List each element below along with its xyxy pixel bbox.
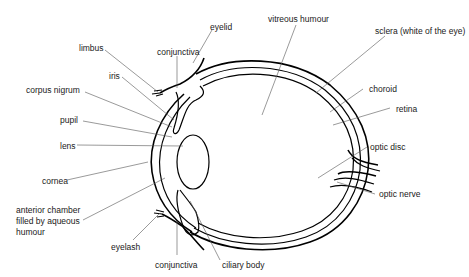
label-retina: retina: [396, 104, 418, 114]
label-anterior-chamber-2: filled by aqueous: [16, 216, 80, 226]
eye-cross-section-drawing: eyelid limbus conjunctiva iris corpus ni…: [0, 0, 469, 277]
label-vitreous-humour: vitreous humour: [268, 14, 329, 24]
eyeball-layers: [190, 61, 369, 250]
label-choroid: choroid: [369, 84, 397, 94]
label-limbus: limbus: [79, 43, 104, 53]
labels: eyelid limbus conjunctiva iris corpus ni…: [16, 14, 465, 270]
lens-drawing: [177, 135, 209, 189]
label-iris: iris: [109, 71, 120, 81]
label-cornea: cornea: [42, 176, 68, 186]
label-corpus-nigrum: corpus nigrum: [26, 85, 80, 95]
label-optic-nerve: optic nerve: [379, 189, 421, 199]
label-eyelid: eyelid: [210, 22, 232, 32]
label-lens: lens: [60, 141, 76, 151]
upper-eyelid: [152, 58, 204, 96]
label-pupil: pupil: [60, 115, 78, 125]
label-conjunctiva-bottom: conjunctiva: [155, 260, 198, 270]
label-anterior-chamber-3: humour: [16, 227, 45, 237]
iris-ciliary-top: [173, 86, 203, 134]
eye-diagram: eyelid limbus conjunctiva iris corpus ni…: [0, 0, 469, 277]
label-conjunctiva-top: conjunctiva: [157, 47, 200, 57]
leader-lines: [67, 25, 390, 260]
label-ciliary-body: ciliary body: [222, 260, 265, 270]
label-sclera: sclera (white of the eye): [375, 26, 465, 36]
label-anterior-chamber-1: anterior chamber: [16, 205, 80, 215]
optic-nerve-drawing: [330, 150, 380, 192]
label-eyelash: eyelash: [111, 242, 141, 252]
cornea-drawing: [151, 94, 196, 232]
label-optic-disc: optic disc: [370, 142, 406, 152]
